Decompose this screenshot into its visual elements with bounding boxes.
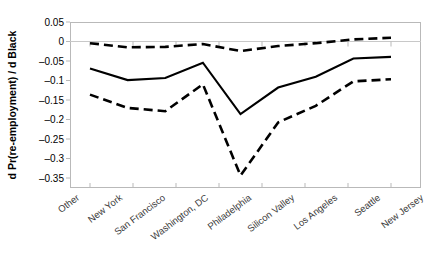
y-tick-label: 0.05	[45, 17, 65, 28]
y-tick-label: –0.3	[45, 153, 65, 164]
line-chart: d Pr(re-employment) / d Black 0.05 0 –0.…	[0, 0, 435, 269]
y-tick-label: –0.05	[39, 56, 64, 67]
y-tick-label: –0.35	[39, 173, 64, 184]
y-tick-label: –0.25	[39, 134, 64, 145]
y-tick-label: –0.15	[39, 95, 64, 106]
y-tick-label: –0.2	[45, 114, 65, 125]
chart-background	[0, 0, 435, 269]
y-tick-label: 0	[58, 36, 64, 47]
y-axis-title: d Pr(re-employment) / d Black	[6, 30, 18, 179]
y-axis-title-group: d Pr(re-employment) / d Black	[6, 30, 18, 179]
y-tick-label: –0.1	[45, 75, 65, 86]
chart-figure: d Pr(re-employment) / d Black 0.05 0 –0.…	[0, 0, 435, 269]
